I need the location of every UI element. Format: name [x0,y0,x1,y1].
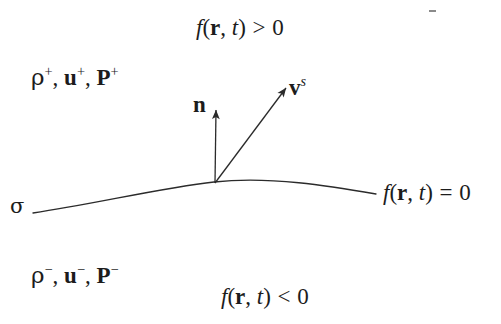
r-vector-symbol: r [397,180,407,205]
r-vector-symbol: r [235,284,245,309]
value: 0 [272,15,284,40]
value: 0 [297,284,309,309]
paren-close: ) [425,180,433,205]
rho-superscript: − [45,261,53,277]
surface-sigma-label: σ [10,196,24,217]
comma: , [220,15,232,40]
normal-vector-label: n [193,93,206,116]
speck-artifact [429,10,436,12]
interface-curve [33,180,376,213]
u-vector-symbol: u [64,263,77,288]
n-vector-symbol: n [193,92,206,117]
lower-state-variables: ρ−, u−, P− [31,264,119,287]
relational-operator: < [271,284,297,309]
paren-close: ) [238,15,246,40]
comma: , [245,284,257,309]
p-tensor-symbol: P [96,263,110,288]
p-superscript: − [110,261,118,277]
paren-open: ( [227,284,235,309]
figure-canvas: f(r, t) > 0 ρ+, u+, P+ n vs f(r, t) = 0 … [0,0,501,324]
u-vector-symbol: u [64,65,77,90]
v-vector-symbol: v [289,75,301,100]
paren-open: ( [202,15,210,40]
rho-superscript: + [45,63,53,79]
normal-vector-arrow [215,110,216,183]
paren-close: ) [263,284,271,309]
comma: , [407,180,419,205]
surface-velocity-label: vs [289,76,306,99]
relational-operator: > [246,15,272,40]
separator-2: , [85,263,97,288]
u-superscript: + [77,63,85,79]
label-f-greater-than-zero: f(r, t) > 0 [196,16,284,39]
s-superscript: s [301,73,307,89]
separator-1: , [53,263,65,288]
value: 0 [459,180,471,205]
relational-operator: = [433,180,459,205]
rho-symbol: ρ [31,64,45,90]
separator-1: , [53,65,65,90]
u-superscript: − [77,261,85,277]
separator-2: , [85,65,97,90]
p-superscript: + [110,63,118,79]
upper-state-variables: ρ+, u+, P+ [31,66,119,89]
paren-open: ( [389,180,397,205]
rho-symbol: ρ [31,262,45,288]
p-tensor-symbol: P [96,65,110,90]
label-f-less-than-zero: f(r, t) < 0 [221,285,309,308]
label-f-equals-zero: f(r, t) = 0 [383,181,471,204]
r-vector-symbol: r [210,15,220,40]
surface-velocity-arrow [215,88,286,183]
